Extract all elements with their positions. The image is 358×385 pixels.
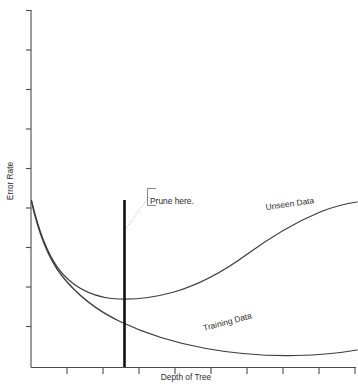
y-axis-title: Error Rate (5, 161, 15, 200)
x-axis-title: Depth of Tree (161, 372, 212, 382)
series-labels-group: Unseen Data Training Data (202, 195, 315, 333)
prune-leader-line (125, 197, 149, 231)
prune-annotation-group: Prune here. (125, 189, 194, 368)
series-label-training-data: Training Data (202, 310, 253, 333)
data-series-group (32, 201, 358, 356)
chart-figure: Prune here. Unseen Data Training Data Er… (0, 0, 358, 385)
series-line-training-data (32, 202, 358, 356)
axes-group (31, 10, 356, 368)
prune-callout-label: Prune here. (150, 196, 194, 206)
y-axis-ticks (26, 11, 31, 327)
chart-canvas: Prune here. Unseen Data Training Data Er… (0, 0, 358, 385)
series-line-unseen-data (32, 201, 358, 300)
series-label-unseen-data: Unseen Data (265, 195, 315, 212)
